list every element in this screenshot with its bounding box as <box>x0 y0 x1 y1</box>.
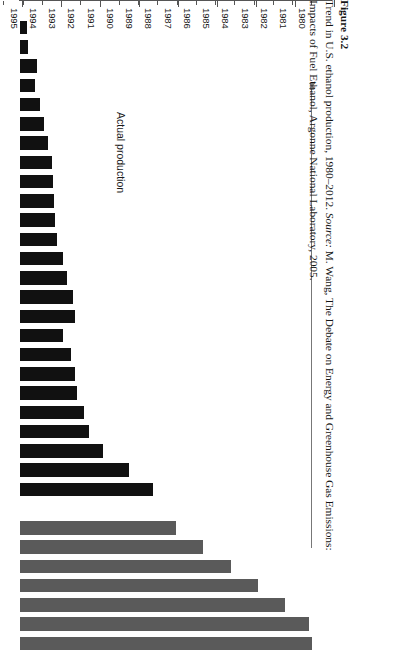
category-label-1991: 1991 <box>86 8 97 29</box>
category-label-1987: 1987 <box>163 8 174 29</box>
bar-1991 <box>20 233 57 246</box>
category-tick <box>80 1 81 5</box>
bar-2011 <box>20 617 309 630</box>
category-label-1988: 1988 <box>143 8 154 29</box>
category-tick <box>215 1 216 5</box>
bar-2006 <box>20 521 176 534</box>
category-tick <box>42 1 43 5</box>
bar-1981 <box>20 40 28 53</box>
bar-1995 <box>20 310 75 323</box>
bar-2012 <box>20 637 313 650</box>
bar-1988 <box>20 175 53 188</box>
chart-figure: 01,0002,0003,0004,0005,0006,0007,0008,00… <box>0 0 340 665</box>
bar-1992 <box>20 252 63 265</box>
caption-source-text: M. Wang, The Debate on Energy and Greenh… <box>324 248 336 551</box>
bar-1990 <box>20 213 55 226</box>
bar-1993 <box>20 271 67 284</box>
bar-1980 <box>20 21 27 34</box>
category-label-1992: 1992 <box>66 8 77 29</box>
caption-main: Trend in U.S. ethanol production, 1980–2… <box>324 0 336 213</box>
bar-2000 <box>20 406 84 419</box>
bar-1984 <box>20 98 40 111</box>
category-label-1990: 1990 <box>105 8 116 29</box>
category-tick <box>273 1 274 5</box>
value-axis-tick <box>217 0 218 7</box>
value-axis-tick <box>256 0 257 7</box>
category-label-1986: 1986 <box>182 8 193 29</box>
category-tick <box>100 1 101 5</box>
bar-2002 <box>20 444 103 457</box>
figure-number: Figure 3.2 <box>337 0 352 665</box>
category-label-1993: 1993 <box>47 8 58 29</box>
category-label-1983: 1983 <box>240 8 251 29</box>
bar-2010 <box>20 598 285 611</box>
bar-1994 <box>20 290 73 303</box>
bar-2008 <box>20 560 231 573</box>
figure-caption-text-line3: Impacts of Fuel Ethanol, Argonne Nationa… <box>306 0 321 665</box>
bar-2007 <box>20 540 203 553</box>
category-label-1996: 1996 <box>0 8 1 29</box>
category-tick <box>138 1 139 5</box>
category-label-1989: 1989 <box>124 8 135 29</box>
category-tick <box>4 1 5 5</box>
caption-source-word: Source: <box>324 213 336 248</box>
category-tick <box>23 1 24 5</box>
category-tick <box>254 1 255 5</box>
value-axis-line <box>19 0 332 1</box>
category-tick <box>177 1 178 5</box>
category-tick <box>292 1 293 5</box>
category-label-1984: 1984 <box>220 8 231 29</box>
bar-1982 <box>20 59 37 72</box>
category-tick <box>61 1 62 5</box>
category-tick <box>119 1 120 5</box>
bar-2009 <box>20 579 258 592</box>
category-label-1981: 1981 <box>278 8 289 29</box>
bar-1989 <box>20 194 54 207</box>
value-axis-tick <box>178 0 179 7</box>
category-label-1982: 1982 <box>259 8 270 29</box>
bar-1997 <box>20 348 71 361</box>
bar-1985 <box>20 117 44 130</box>
plot-area: 01,0002,0003,0004,0005,0006,0007,0008,00… <box>0 0 340 665</box>
value-axis-tick <box>295 0 296 7</box>
category-label-1995: 1995 <box>9 8 20 29</box>
bar-1983 <box>20 79 35 92</box>
bar-1996 <box>20 329 63 342</box>
category-tick <box>234 1 235 5</box>
bar-1986 <box>20 136 48 149</box>
bar-2004 <box>20 483 153 496</box>
bar-1999 <box>20 386 77 399</box>
category-tick <box>196 1 197 5</box>
bar-1987 <box>20 156 52 169</box>
figure-caption-text: Trend in U.S. ethanol production, 1980–2… <box>321 0 336 665</box>
category-tick <box>157 1 158 5</box>
bar-2001 <box>20 425 89 438</box>
bar-1998 <box>20 367 75 380</box>
group-label-actual-production: Actual production <box>115 112 127 193</box>
bar-2003 <box>20 463 129 476</box>
figure-caption: Figure 3.2 Trend in U.S. ethanol product… <box>306 0 352 665</box>
category-label-1994: 1994 <box>28 8 39 29</box>
category-label-1985: 1985 <box>201 8 212 29</box>
